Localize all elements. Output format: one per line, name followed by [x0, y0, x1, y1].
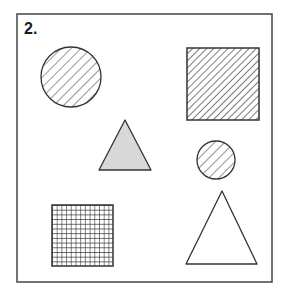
hatched-square: [187, 48, 259, 120]
figure-canvas: 2.: [0, 0, 286, 292]
small-hatched-circle: [197, 141, 235, 179]
grid-square: [52, 205, 113, 266]
large-hatched-circle: [41, 47, 101, 107]
figure-label: 2.: [24, 20, 37, 37]
